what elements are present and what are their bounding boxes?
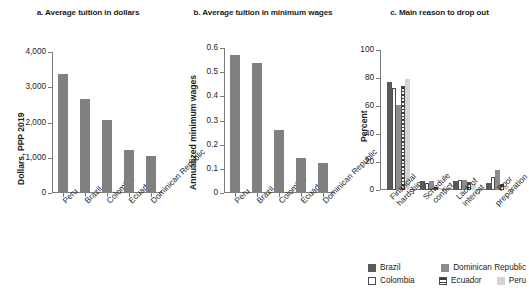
panel-c-plot-area: 020406080100FinancialhardshipSchedulecon… bbox=[380, 50, 512, 190]
legend-item-colombia[interactable]: Colombia bbox=[368, 276, 439, 285]
panel-c-y-tick bbox=[376, 134, 380, 135]
legend-swatch-peru bbox=[497, 277, 505, 285]
bar bbox=[318, 163, 328, 193]
panel-a-title: a. Average tuition in dollars bbox=[0, 7, 176, 18]
panel-a-y-tick-label: 2,000 bbox=[26, 119, 47, 127]
panel-c-y-tick-label: 20 bbox=[365, 158, 374, 166]
bar bbox=[296, 158, 306, 193]
legend-label-colombia: Colombia bbox=[380, 276, 415, 285]
panel-b-y-tick bbox=[220, 145, 224, 146]
panel-b-y-tick-label: 0.6 bbox=[207, 44, 218, 52]
bar bbox=[274, 130, 284, 193]
panel-c-y-tick-label: 0 bbox=[369, 186, 374, 194]
legend-item-brazil[interactable]: Brazil bbox=[368, 263, 441, 272]
figure: a. Average tuition in dollars Dollars, P… bbox=[0, 0, 529, 302]
legend-row-2: Colombia Ecuador Peru bbox=[368, 274, 526, 287]
panel-c-x-tick bbox=[413, 190, 414, 194]
legend-swatch-brazil bbox=[368, 264, 376, 272]
legend-item-peru[interactable]: Peru bbox=[497, 276, 526, 285]
bar bbox=[58, 74, 68, 193]
panel-c: c. Main reason to drop out Percent 02040… bbox=[350, 0, 529, 302]
panel-b-y-tick-label: 0.1 bbox=[207, 165, 218, 173]
panel-b-y-tick-label: 0.2 bbox=[207, 141, 218, 149]
panel-b: b. Average tuition in minimum wages Annu… bbox=[176, 0, 350, 302]
legend-swatch-dominican-republic bbox=[441, 264, 449, 272]
panel-c-y-tick bbox=[376, 50, 380, 51]
panel-c-y-tick-label: 60 bbox=[365, 102, 374, 110]
panel-c-y-tick-label: 100 bbox=[360, 46, 374, 54]
panel-a-y-tick bbox=[48, 123, 52, 124]
panel-a-y-tick-label: 4,000 bbox=[26, 48, 47, 56]
panel-b-y-axis-title: Annualized minimum wages bbox=[188, 75, 198, 190]
panel-b-plot-area: 00.10.20.30.40.50.6PeruBrazilColombiaEcu… bbox=[224, 48, 334, 193]
panel-b-y-axis bbox=[224, 48, 225, 193]
panel-a: a. Average tuition in dollars Dollars, P… bbox=[0, 0, 176, 302]
panel-b-y-tick bbox=[220, 169, 224, 170]
legend: Brazil Dominican Republic Colombia Ecuad… bbox=[368, 261, 526, 287]
panel-a-y-tick-label: 0 bbox=[41, 189, 46, 197]
panel-a-y-axis bbox=[52, 52, 53, 193]
legend-row-1: Brazil Dominican Republic bbox=[368, 261, 526, 274]
panel-a-y-tick bbox=[48, 158, 52, 159]
panel-c-x-tick bbox=[446, 190, 447, 194]
bar bbox=[124, 150, 134, 193]
panel-b-y-tick-label: 0 bbox=[213, 189, 218, 197]
legend-label-ecuador: Ecuador bbox=[451, 276, 482, 285]
legend-swatch-colombia bbox=[368, 277, 376, 285]
bar bbox=[252, 63, 262, 194]
panel-a-plot-area: 01,0002,0003,0004,000PeruBrazilColombiaE… bbox=[52, 52, 162, 193]
panel-b-y-tick bbox=[220, 48, 224, 49]
panel-c-x-tick bbox=[512, 190, 513, 194]
panel-b-y-tick bbox=[220, 96, 224, 97]
panel-b-title: b. Average tuition in minimum wages bbox=[176, 7, 350, 18]
panel-b-y-tick bbox=[220, 72, 224, 73]
panel-c-y-tick bbox=[376, 162, 380, 163]
legend-label-brazil: Brazil bbox=[380, 263, 400, 272]
panel-c-title: c. Main reason to drop out bbox=[350, 7, 529, 18]
panel-c-y-tick-label: 40 bbox=[365, 130, 374, 138]
legend-item-dominican-republic[interactable]: Dominican Republic bbox=[441, 263, 526, 272]
panel-c-y-tick bbox=[376, 78, 380, 79]
panel-c-y-tick bbox=[376, 106, 380, 107]
panel-c-x-tick-label: Scheduleconflict bbox=[422, 172, 458, 208]
panel-b-y-tick bbox=[220, 193, 224, 194]
bar bbox=[146, 156, 156, 193]
legend-label-dominican-republic: Dominican Republic bbox=[453, 263, 526, 272]
panel-c-y-axis bbox=[380, 50, 381, 190]
bar bbox=[102, 120, 112, 193]
panel-c-x-tick bbox=[479, 190, 480, 194]
panel-a-y-tick bbox=[48, 193, 52, 194]
panel-c-y-tick-label: 80 bbox=[365, 74, 374, 82]
panel-a-y-tick-label: 3,000 bbox=[26, 83, 47, 91]
panel-b-y-tick-label: 0.3 bbox=[207, 117, 218, 125]
legend-item-ecuador[interactable]: Ecuador bbox=[439, 276, 497, 285]
panel-b-y-tick-label: 0.5 bbox=[207, 68, 218, 76]
bar bbox=[80, 99, 90, 193]
panel-a-y-tick bbox=[48, 52, 52, 53]
legend-label-peru: Peru bbox=[509, 276, 526, 285]
panel-b-y-tick bbox=[220, 121, 224, 122]
bar bbox=[230, 55, 240, 193]
panel-b-y-tick-label: 0.4 bbox=[207, 92, 218, 100]
panel-a-y-tick bbox=[48, 87, 52, 88]
panel-a-y-axis-title: Dollars, PPP 2019 bbox=[16, 113, 26, 185]
panel-a-y-tick-label: 1,000 bbox=[26, 154, 47, 162]
panel-c-y-tick bbox=[376, 190, 380, 191]
legend-swatch-ecuador bbox=[439, 277, 447, 285]
